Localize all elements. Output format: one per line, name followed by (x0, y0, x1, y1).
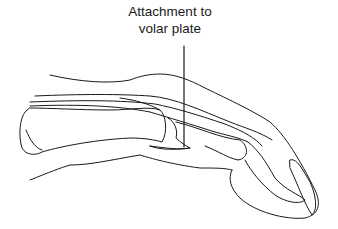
distal-phalanx (245, 142, 305, 202)
proximal-phalanx-head-detail (26, 130, 42, 150)
palmar-skin-outline (30, 155, 232, 180)
tendon-3 (30, 105, 248, 142)
finger-illustration (0, 0, 338, 229)
middle-phalanx (176, 122, 247, 160)
proximal-phalanx (20, 108, 166, 154)
